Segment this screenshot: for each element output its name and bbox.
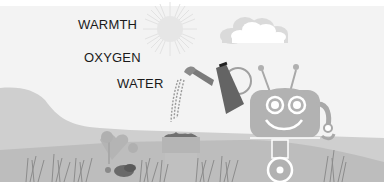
label-warmth: WARMTH bbox=[78, 17, 137, 32]
sun-icon bbox=[143, 2, 197, 56]
plant-pot-icon bbox=[162, 132, 200, 182]
label-water: WATER bbox=[117, 76, 164, 91]
label-oxygen: OXYGEN bbox=[84, 50, 141, 65]
illustration-scene: WARMTH OXYGEN WATER bbox=[0, 0, 384, 188]
